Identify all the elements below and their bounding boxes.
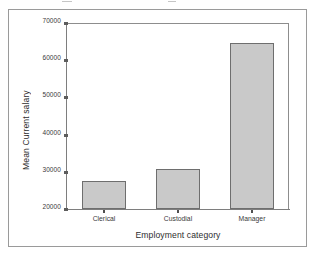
bar-custodial[interactable] [156,169,200,209]
x-axis-tick [103,210,105,213]
x-axis-tick [177,210,179,213]
bar-clerical[interactable] [82,181,126,209]
y-axis-tick-label: 40000 [42,129,61,136]
y-axis-tick: 70000 [64,22,68,25]
y-axis-tick: 50000 [64,96,68,99]
y-axis-tick-label: 20000 [42,203,61,210]
clipped-text-strip [0,0,317,5]
y-axis-tick: 20000 [64,208,68,211]
y-axis-title: Mean Current salary [21,70,32,190]
clipped-glyph-fragment [62,1,72,2]
y-axis-tick-label: 50000 [42,91,61,98]
x-axis-title: Employment category [67,230,289,240]
y-axis-tick: 30000 [64,171,68,174]
bar-manager[interactable] [230,43,274,209]
x-axis-tick [251,210,253,213]
y-axis-tick: 40000 [64,134,68,137]
y-axis-line [66,23,67,210]
y-axis-tick-label: 30000 [42,166,61,173]
x-axis-category-label-custodial: Custodial [164,215,192,222]
y-axis-tick-label: 70000 [42,17,61,24]
clipped-glyph-fragment [168,1,176,2]
x-axis-category-label-clerical: Clerical [93,215,116,222]
x-axis-category-label-manager: Manager [239,215,266,222]
y-axis-tick: 60000 [64,59,68,62]
y-axis-tick-label: 60000 [42,54,61,61]
chart-frame: 70000 60000 50000 40000 30000 20000 Cler… [8,9,307,247]
